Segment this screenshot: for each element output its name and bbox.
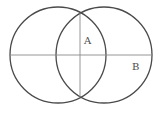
venn-diagram: A B [0,0,159,114]
label-b: B [132,61,139,72]
label-a: A [83,35,92,46]
